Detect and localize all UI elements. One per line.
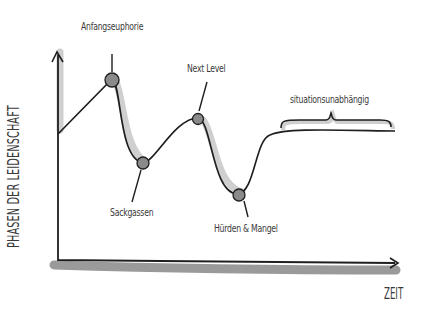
drop-highlight-1 — [116, 82, 146, 162]
y-axis-label: PHASEN DER LEIDENSCHAFT — [5, 105, 23, 248]
pointer-sackgassen — [132, 170, 141, 202]
label-next-level: Next Level — [187, 62, 225, 75]
dot-sackgassen — [137, 157, 149, 169]
brace-icon — [281, 113, 391, 128]
label-huerden-mangel: Hürden & Mangel — [214, 222, 278, 235]
dot-huerden — [233, 189, 245, 201]
label-anfangseuphorie: Anfangseuphorie — [81, 20, 143, 33]
dot-next-level — [193, 114, 204, 125]
x-axis-highlight — [54, 265, 396, 270]
label-situationsunabhaengig: situationsunabhängig — [290, 93, 369, 106]
x-axis-label: ZEIT — [384, 284, 403, 303]
pointer-next-level — [199, 82, 207, 111]
dot-anfangseuphorie — [105, 73, 119, 87]
passion-curve-diagram — [0, 0, 425, 315]
label-sackgassen: Sackgassen — [110, 206, 153, 219]
pointer-huerden — [244, 201, 248, 217]
brace-highlight — [283, 115, 393, 130]
